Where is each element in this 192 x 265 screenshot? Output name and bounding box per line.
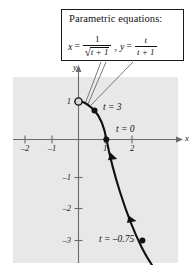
x-equals-sign: = (74, 41, 79, 51)
y-numerator: t (142, 36, 149, 46)
point-t-equals-minus-0-75 (139, 238, 145, 244)
point-t-equals-3 (92, 108, 98, 114)
equations-box-title: Parametric equations: (69, 13, 162, 24)
y-tick-label-1: 1 (60, 96, 71, 106)
equation-separator: , (114, 41, 117, 52)
y-denominator: t + 1 (135, 47, 157, 57)
annotation-t-equals-3-text: t = 3 (103, 102, 122, 112)
parametric-curve-figure: Parametric equations: x = 1 √ t + 1 , y … (0, 0, 192, 265)
x-tick-label-2: 2 (125, 143, 139, 153)
x-numerator: 1 (93, 35, 102, 45)
x-denominator: √ t + 1 (83, 46, 112, 58)
x-tick-label-minus-2: –2 (17, 143, 33, 153)
point-t-equals-0 (103, 137, 109, 143)
parametric-equations-box: Parametric equations: x = 1 √ t + 1 , y … (61, 9, 184, 61)
y-tick-label-minus-1: –1 (56, 172, 71, 182)
radicand: t + 1 (90, 47, 110, 58)
x-tick-label-1: 1 (98, 143, 112, 153)
x-axis-label: x (185, 133, 189, 143)
y-variable: y (120, 41, 124, 52)
annotation-t-equals-0-text: t = 0 (116, 124, 135, 134)
annotation-t-equals-3: t = 3 (103, 102, 122, 112)
x-tick-label-minus-1: –1 (44, 143, 60, 153)
x-variable: x (68, 41, 72, 52)
radical-icon: √ (85, 46, 91, 58)
y-fraction: t t + 1 (135, 36, 157, 57)
annotation-t-equals-minus-0-75-text: t = –0.75 (99, 234, 134, 244)
equations-row: x = 1 √ t + 1 , y = t t + 1 (68, 32, 180, 60)
y-equals-sign: = (126, 41, 131, 51)
y-tick-label-minus-2: –2 (56, 203, 71, 213)
plot-background (13, 77, 178, 263)
radical-group: √ t + 1 (85, 47, 110, 58)
open-point-0-1 (75, 98, 82, 105)
annotation-t-equals-minus-0-75: t = –0.75 (99, 234, 134, 244)
y-tick-label-minus-3: –3 (56, 235, 71, 245)
annotation-t-equals-0: t = 0 (116, 124, 135, 134)
y-axis-label: y (73, 62, 77, 72)
x-fraction: 1 √ t + 1 (83, 35, 112, 58)
